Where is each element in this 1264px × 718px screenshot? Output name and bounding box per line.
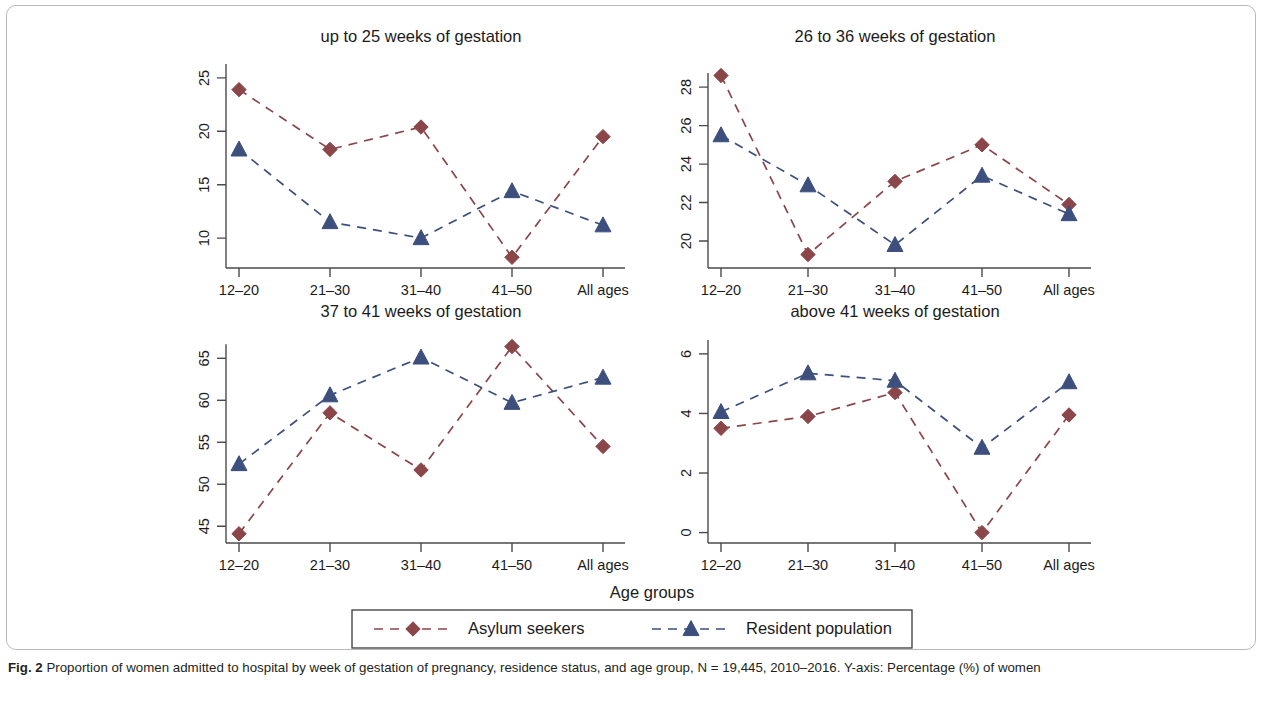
data-point-marker-triangle[interactable] (413, 349, 429, 364)
x-tick-label: 21–30 (310, 282, 350, 298)
x-tick-label: 12–20 (219, 557, 259, 573)
data-point-marker-diamond[interactable] (232, 82, 246, 96)
data-point-marker-triangle[interactable] (413, 230, 429, 245)
data-point-marker-triangle[interactable] (595, 369, 611, 384)
data-point-marker-triangle[interactable] (595, 217, 611, 232)
figure-caption-text: Proportion of women admitted to hospital… (43, 660, 1041, 675)
data-point-marker-diamond[interactable] (414, 120, 428, 134)
data-point-marker-diamond[interactable] (1062, 408, 1076, 422)
series-line-resident-population (239, 149, 603, 238)
data-point-marker-triangle[interactable] (504, 394, 520, 409)
x-tick-label: 31–40 (875, 557, 915, 573)
x-tick-label: All ages (577, 557, 629, 573)
data-point-marker-diamond[interactable] (975, 525, 989, 539)
data-point-marker-triangle[interactable] (504, 183, 520, 198)
data-point-marker-triangle[interactable] (1061, 206, 1077, 221)
y-tick-label: 10 (196, 230, 212, 246)
data-point-marker-diamond[interactable] (801, 409, 815, 423)
data-point-marker-diamond[interactable] (714, 68, 728, 82)
x-tick-label: 12–20 (701, 282, 741, 298)
figure-caption: Fig. 2 Proportion of women admitted to h… (8, 658, 1256, 678)
y-tick-label: 6 (678, 350, 694, 358)
data-point-marker-triangle[interactable] (974, 167, 990, 182)
series-line-resident-population (721, 135, 1069, 245)
x-tick-label: 41–50 (962, 557, 1002, 573)
x-tick-label: 31–40 (401, 557, 441, 573)
data-point-marker-triangle[interactable] (1061, 374, 1077, 389)
y-tick-label: 20 (678, 233, 694, 249)
data-point-marker-triangle[interactable] (713, 404, 729, 419)
chart-panel-3: 37 to 41 weeks of gestation455055606512–… (196, 302, 629, 573)
data-point-marker-triangle[interactable] (713, 127, 729, 142)
y-tick-label: 22 (678, 194, 694, 210)
series-line-resident-population (239, 357, 603, 464)
legend-label-resident-population: Resident population (746, 619, 892, 637)
y-tick-label: 60 (196, 392, 212, 408)
legend-label-asylum-seekers: Asylum seekers (468, 619, 584, 637)
x-tick-label: 41–50 (492, 282, 532, 298)
multi-panel-line-chart: up to 25 weeks of gestation1015202512–20… (7, 6, 1255, 649)
y-tick-label: 28 (678, 79, 694, 95)
panel-title-1: up to 25 weeks of gestation (321, 27, 522, 45)
series-line-asylum-seekers (721, 393, 1069, 533)
chart-legend: Asylum seekersResident population (352, 610, 912, 648)
data-point-marker-triangle[interactable] (322, 387, 338, 402)
data-point-marker-diamond[interactable] (801, 247, 815, 261)
data-point-marker-diamond[interactable] (323, 406, 337, 420)
data-point-marker-diamond[interactable] (232, 527, 246, 541)
x-tick-label: 12–20 (701, 557, 741, 573)
panel-title-2: 26 to 36 weeks of gestation (795, 27, 996, 45)
data-point-marker-triangle[interactable] (800, 177, 816, 192)
y-tick-label: 2 (678, 469, 694, 477)
data-point-marker-diamond[interactable] (975, 138, 989, 152)
data-point-marker-triangle[interactable] (800, 365, 816, 380)
series-line-asylum-seekers (721, 76, 1069, 255)
x-tick-label: 21–30 (310, 557, 350, 573)
y-tick-label: 25 (196, 70, 212, 86)
x-tick-label: 31–40 (401, 282, 441, 298)
x-tick-label: 31–40 (875, 282, 915, 298)
x-tick-label: 41–50 (492, 557, 532, 573)
data-point-marker-diamond[interactable] (596, 439, 610, 453)
chart-panel-2: 26 to 36 weeks of gestation202224262812–… (678, 27, 1095, 298)
x-tick-label: All ages (577, 282, 629, 298)
data-point-marker-diamond[interactable] (596, 129, 610, 143)
data-point-marker-triangle[interactable] (887, 237, 903, 252)
data-point-marker-diamond[interactable] (714, 421, 728, 435)
chart-plot-area: up to 25 weeks of gestation1015202512–20… (7, 6, 1255, 649)
data-point-marker-diamond[interactable] (323, 142, 337, 156)
x-axis-title: Age groups (610, 583, 694, 601)
data-point-marker-triangle[interactable] (322, 214, 338, 229)
x-tick-label: 21–30 (788, 557, 828, 573)
y-tick-label: 45 (196, 518, 212, 534)
chart-panel-4: above 41 weeks of gestation024612–2021–3… (678, 302, 1095, 573)
y-tick-label: 65 (196, 350, 212, 366)
y-tick-label: 26 (678, 118, 694, 134)
data-point-marker-diamond[interactable] (505, 250, 519, 264)
data-point-marker-diamond[interactable] (414, 463, 428, 477)
data-point-marker-triangle[interactable] (231, 141, 247, 156)
x-tick-label: All ages (1043, 557, 1095, 573)
y-tick-label: 24 (678, 156, 694, 172)
data-point-marker-triangle[interactable] (974, 439, 990, 454)
x-tick-label: 12–20 (219, 282, 259, 298)
figure-frame: up to 25 weeks of gestation1015202512–20… (6, 5, 1256, 650)
y-tick-label: 0 (678, 529, 694, 537)
panel-title-3: 37 to 41 weeks of gestation (321, 302, 522, 320)
y-tick-label: 55 (196, 434, 212, 450)
series-line-asylum-seekers (239, 347, 603, 534)
x-tick-label: 21–30 (788, 282, 828, 298)
y-tick-label: 15 (196, 177, 212, 193)
y-tick-label: 20 (196, 123, 212, 139)
data-point-marker-triangle[interactable] (231, 456, 247, 471)
y-tick-label: 50 (196, 476, 212, 492)
chart-panel-1: up to 25 weeks of gestation1015202512–20… (196, 27, 629, 298)
y-tick-label: 4 (678, 409, 694, 417)
x-tick-label: All ages (1043, 282, 1095, 298)
x-tick-label: 41–50 (962, 282, 1002, 298)
figure-caption-label: Fig. 2 (8, 660, 43, 675)
panel-title-4: above 41 weeks of gestation (790, 302, 999, 320)
